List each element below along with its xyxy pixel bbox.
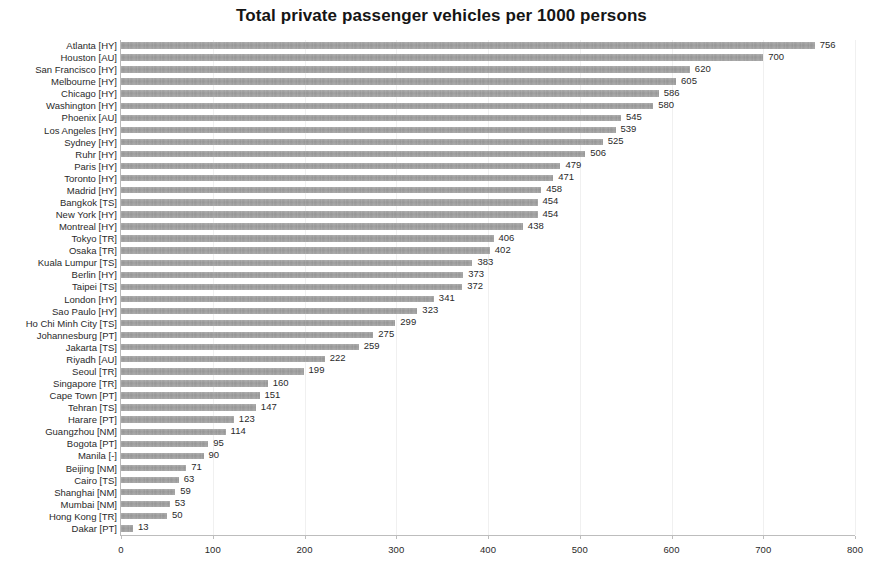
bar[interactable] <box>121 465 186 471</box>
bar[interactable] <box>121 223 523 229</box>
bar[interactable] <box>121 344 359 350</box>
bar-row[interactable]: 151 <box>121 390 855 402</box>
y-axis-label: Atlanta [HY] <box>0 40 117 52</box>
y-axis-label: Johannesburg [PT] <box>0 330 117 342</box>
bar-row[interactable]: 525 <box>121 137 855 149</box>
bar-value-label: 756 <box>820 39 836 51</box>
bar-row[interactable]: 620 <box>121 64 855 76</box>
bar-row[interactable]: 539 <box>121 125 855 137</box>
bar[interactable] <box>121 453 204 459</box>
bar-row[interactable]: 372 <box>121 281 855 293</box>
bar-row[interactable]: 299 <box>121 318 855 330</box>
bar-row[interactable]: 114 <box>121 426 855 438</box>
bar-row[interactable]: 700 <box>121 52 855 64</box>
bar-row[interactable]: 756 <box>121 40 855 52</box>
bar[interactable] <box>121 416 234 422</box>
bar-value-label: 199 <box>309 364 325 376</box>
bar-row[interactable]: 383 <box>121 257 855 269</box>
bar[interactable] <box>121 525 133 531</box>
bar[interactable] <box>121 296 434 302</box>
bar-row[interactable]: 50 <box>121 511 855 523</box>
bar[interactable] <box>121 380 268 386</box>
bar[interactable] <box>121 501 170 507</box>
bar-row[interactable]: 605 <box>121 76 855 88</box>
x-tick-label: 600 <box>664 544 680 555</box>
x-tick-mark <box>580 536 581 539</box>
bar[interactable] <box>121 392 260 398</box>
bar-row[interactable]: 222 <box>121 354 855 366</box>
bar[interactable] <box>121 127 616 133</box>
bar[interactable] <box>121 139 603 145</box>
bar-row[interactable]: 545 <box>121 112 855 124</box>
bar[interactable] <box>121 308 417 314</box>
bar-row[interactable]: 586 <box>121 88 855 100</box>
bar[interactable] <box>121 199 538 205</box>
bar-value-label: 299 <box>400 316 416 328</box>
bar-row[interactable]: 160 <box>121 378 855 390</box>
bar-row[interactable]: 471 <box>121 173 855 185</box>
bar[interactable] <box>121 429 226 435</box>
bar[interactable] <box>121 42 815 48</box>
bar-row[interactable]: 454 <box>121 197 855 209</box>
bar[interactable] <box>121 368 304 374</box>
bar-row[interactable]: 479 <box>121 161 855 173</box>
x-tick-label: 500 <box>572 544 588 555</box>
bar-row[interactable]: 71 <box>121 463 855 475</box>
bar[interactable] <box>121 441 208 447</box>
bar-row[interactable]: 458 <box>121 185 855 197</box>
bar-row[interactable]: 59 <box>121 487 855 499</box>
bar[interactable] <box>121 54 763 60</box>
bar[interactable] <box>121 211 538 217</box>
bar[interactable] <box>121 187 541 193</box>
bar[interactable] <box>121 260 472 266</box>
y-axis-label: San Francisco [HY] <box>0 64 117 76</box>
bar-value-label: 479 <box>565 159 581 171</box>
bar[interactable] <box>121 163 560 169</box>
bar[interactable] <box>121 175 553 181</box>
bar-row[interactable]: 199 <box>121 366 855 378</box>
bar[interactable] <box>121 320 395 326</box>
bar-row[interactable]: 323 <box>121 306 855 318</box>
bar-row[interactable]: 53 <box>121 499 855 511</box>
bar-row[interactable]: 13 <box>121 523 855 535</box>
bar-value-label: 50 <box>172 509 183 521</box>
bar[interactable] <box>121 247 490 253</box>
y-axis-label: Tehran [TS] <box>0 402 117 414</box>
y-axis-label: Chicago [HY] <box>0 88 117 100</box>
bar[interactable] <box>121 90 659 96</box>
bar[interactable] <box>121 404 256 410</box>
bar[interactable] <box>121 477 179 483</box>
bar-value-label: 123 <box>239 413 255 425</box>
bar-row[interactable]: 506 <box>121 149 855 161</box>
bar-value-label: 372 <box>467 280 483 292</box>
bar-row[interactable]: 63 <box>121 475 855 487</box>
bar[interactable] <box>121 489 175 495</box>
y-axis-label: Melbourne [HY] <box>0 76 117 88</box>
bar[interactable] <box>121 103 653 109</box>
y-axis-label: Houston [AU] <box>0 52 117 64</box>
bar[interactable] <box>121 235 494 241</box>
bar-row[interactable]: 406 <box>121 233 855 245</box>
bar-row[interactable]: 275 <box>121 330 855 342</box>
bar[interactable] <box>121 272 463 278</box>
bar[interactable] <box>121 332 373 338</box>
bar-value-label: 160 <box>273 377 289 389</box>
bar-row[interactable]: 90 <box>121 450 855 462</box>
bar[interactable] <box>121 115 621 121</box>
bar[interactable] <box>121 356 325 362</box>
bar[interactable] <box>121 513 167 519</box>
bar-row[interactable]: 438 <box>121 221 855 233</box>
bar-row[interactable]: 259 <box>121 342 855 354</box>
bar-row[interactable]: 580 <box>121 100 855 112</box>
bar[interactable] <box>121 78 676 84</box>
bar[interactable] <box>121 284 462 290</box>
bar[interactable] <box>121 66 690 72</box>
bar-row[interactable]: 147 <box>121 402 855 414</box>
bar-value-label: 323 <box>422 304 438 316</box>
bar-value-label: 525 <box>608 135 624 147</box>
bar-row[interactable]: 95 <box>121 438 855 450</box>
bar-row[interactable]: 373 <box>121 269 855 281</box>
bar-row[interactable]: 341 <box>121 294 855 306</box>
bar[interactable] <box>121 151 585 157</box>
bar-row[interactable]: 454 <box>121 209 855 221</box>
